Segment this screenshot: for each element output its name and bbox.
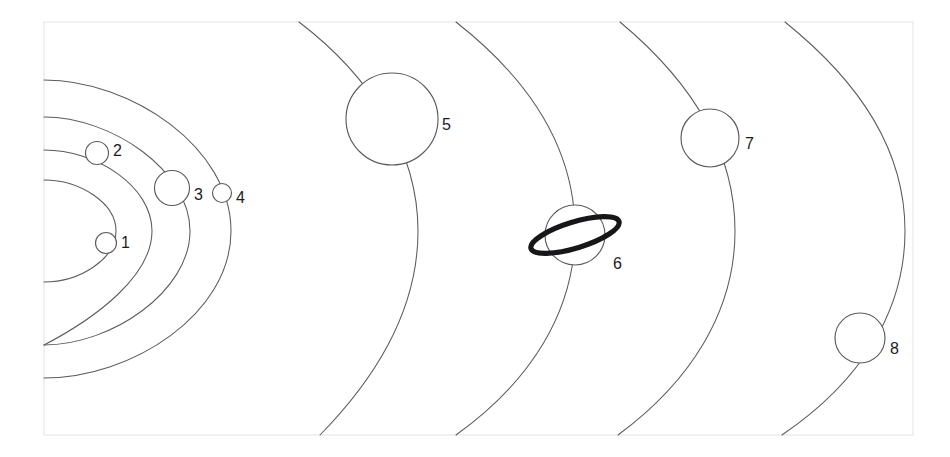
planet-layer: 12345678 bbox=[86, 73, 900, 363]
solar-system-canvas: 12345678 bbox=[0, 0, 950, 457]
planet-7-label: 7 bbox=[745, 135, 754, 152]
diagram-frame bbox=[44, 22, 913, 435]
planet-3-body[interactable] bbox=[155, 171, 190, 206]
planet-3-label: 3 bbox=[194, 186, 203, 203]
orbit-8 bbox=[782, 22, 905, 435]
planet-7[interactable]: 7 bbox=[681, 109, 754, 167]
planet-2-body[interactable] bbox=[86, 142, 109, 165]
planet-3[interactable]: 3 bbox=[155, 171, 204, 206]
planet-6-body[interactable] bbox=[545, 205, 605, 265]
planet-2[interactable]: 2 bbox=[86, 142, 123, 165]
planet-5-body[interactable] bbox=[346, 73, 438, 165]
solar-system-diagram: 12345678 bbox=[0, 0, 950, 457]
planet-7-body[interactable] bbox=[681, 109, 739, 167]
planet-2-label: 2 bbox=[113, 142, 122, 159]
planet-5[interactable]: 5 bbox=[346, 73, 451, 165]
planet-4[interactable]: 4 bbox=[213, 184, 246, 207]
planet-5-label: 5 bbox=[442, 116, 451, 133]
orbit-layer bbox=[44, 22, 905, 435]
planet-1-body[interactable] bbox=[96, 233, 117, 254]
planet-4-label: 4 bbox=[236, 189, 245, 206]
planet-8[interactable]: 8 bbox=[835, 313, 899, 363]
orbit-1 bbox=[44, 180, 116, 282]
orbit-4 bbox=[44, 80, 231, 378]
planet-1-label: 1 bbox=[121, 234, 130, 251]
planet-1[interactable]: 1 bbox=[96, 233, 131, 254]
orbit-7 bbox=[618, 22, 735, 435]
planet-4-body[interactable] bbox=[213, 184, 232, 203]
planet-6-label: 6 bbox=[613, 255, 622, 272]
planet-8-label: 8 bbox=[890, 340, 899, 357]
planet-6[interactable]: 6 bbox=[527, 205, 623, 272]
planet-8-body[interactable] bbox=[835, 313, 885, 363]
